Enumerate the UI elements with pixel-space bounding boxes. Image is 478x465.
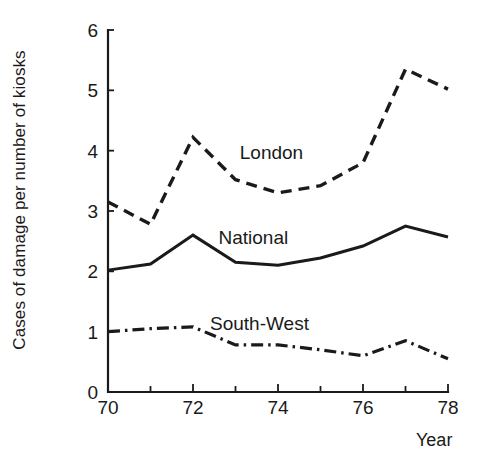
y-tick-label: 0 [87,382,98,403]
x-tick-label: 70 [97,397,118,418]
tick-marks-group [108,30,448,392]
y-tick-label: 6 [87,20,98,41]
y-tick-label: 3 [87,201,98,222]
axis-lines [108,30,448,392]
x-tick-label: 78 [437,397,458,418]
y-tick-label: 4 [87,141,98,162]
y-tick-label: 5 [87,80,98,101]
x-tick-label: 76 [352,397,373,418]
x-tick-label: 74 [267,397,289,418]
series-label-south-west: South-West [210,313,310,334]
x-tick-label: 72 [182,397,203,418]
y-axis-tick-labels: 0123456 [87,20,98,403]
y-tick-label: 1 [87,322,98,343]
chart-plot-area: 0123456 7072747678 LondonNationalSouth-W… [0,0,478,465]
x-axis-title-label: Year [416,430,452,451]
series-label-london: London [240,142,303,163]
y-tick-label: 2 [87,261,98,282]
series-label-national: National [219,227,289,248]
x-axis-tick-labels: 7072747678 [97,397,458,418]
line-chart-figure: 0123456 7072747678 LondonNationalSouth-W… [0,0,478,465]
axes-group [108,30,448,392]
